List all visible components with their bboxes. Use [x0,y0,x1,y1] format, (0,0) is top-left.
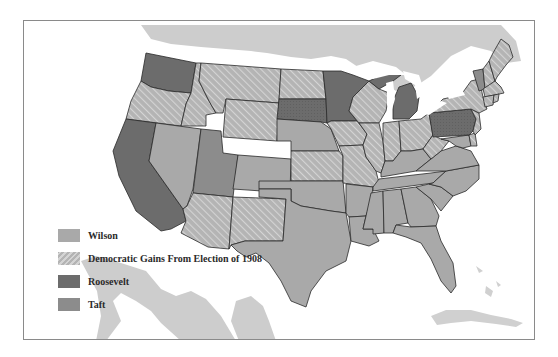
legend-item-taft: Taft [58,298,262,311]
legend-item-roosevelt: Roosevelt [58,275,262,288]
wilson-swatch [58,229,80,242]
state-utah [193,129,238,197]
legend-label: Democratic Gains From Election of 1908 [88,253,262,264]
state-connecticut [483,95,494,107]
legend-label: Taft [88,299,105,310]
state-florida [393,225,456,293]
state-wyoming [223,99,279,141]
state-kansas [291,151,343,181]
legend-item-democratic-gains: Democratic Gains From Election of 1908 [58,252,262,265]
legend-item-wilson: Wilson [58,229,262,242]
state-pennsylvania [429,109,476,137]
bahamas [476,266,501,297]
state-north-dakota [279,69,326,99]
legend-label: Roosevelt [88,276,129,287]
cuba [431,310,523,327]
state-rhode-island [493,94,499,103]
legend-label: Wilson [88,230,118,241]
map-legend: Wilson Democratic Gains From Election of… [58,229,262,321]
roosevelt-swatch [58,275,80,288]
democratic-gains-swatch [58,252,80,265]
map-frame: Wilson Democratic Gains From Election of… [23,20,535,340]
taft-swatch [58,298,80,311]
